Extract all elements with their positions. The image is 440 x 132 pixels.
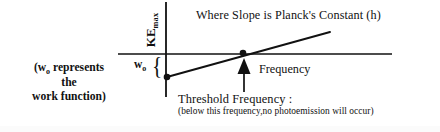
work-function-symbol-subscript: o — [142, 64, 146, 73]
work-function-note-suffix: represents — [50, 61, 104, 74]
threshold-annotation-subtitle: (below this frequency,no photoemission w… — [178, 107, 374, 117]
curly-brace-icon: { — [152, 53, 162, 79]
x-axis-label: Frequency — [259, 63, 310, 76]
y-intercept-point-marker — [164, 74, 171, 81]
work-function-note: (wo represents the work function) — [8, 61, 130, 105]
slope-annotation: Where Slope is Planck's Constant (h) — [196, 9, 381, 22]
y-axis-label: KEmax — [144, 8, 188, 52]
bottom-edge-band — [0, 126, 440, 132]
y-axis-label-main: KE — [143, 28, 158, 47]
work-function-note-prefix: (w — [34, 61, 46, 74]
y-axis-label-subscript: max — [151, 13, 160, 29]
work-function-note-line-1: (wo represents — [8, 61, 130, 76]
work-function-note-line-3: work function) — [8, 90, 130, 105]
photoelectric-diagram: KEmax Where Slope is Planck's Constant (… — [0, 0, 440, 132]
work-function-note-subscript: o — [46, 67, 50, 76]
threshold-annotation-title: Threshold Frequency : — [178, 93, 374, 106]
threshold-point-marker — [240, 50, 247, 57]
work-function-note-line-2: the — [8, 76, 130, 91]
threshold-annotation: Threshold Frequency : (below this freque… — [178, 93, 374, 117]
threshold-arrow-icon — [238, 58, 251, 74]
work-function-axis-label: wo — [134, 59, 146, 71]
